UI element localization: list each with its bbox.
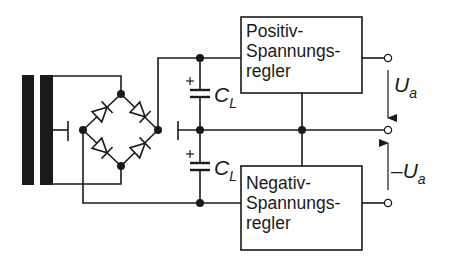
box-line: regler [246, 213, 340, 233]
cap-label-1: CL [214, 83, 237, 111]
cap-label-2: CL [214, 156, 237, 184]
positive-regulator-label: Positiv- Spannungs- regler [246, 21, 340, 81]
schematic: CL CL Ua –Ua [0, 0, 451, 259]
box-line: Spannungs- [246, 41, 340, 61]
circuit-diagram: CL CL Ua –Ua Positiv- Spannungs- regler … [0, 0, 451, 259]
box-line: regler [246, 61, 340, 81]
box-line: Negativ- [246, 173, 340, 193]
negative-regulator-label: Negativ- Spannungs- regler [246, 173, 340, 233]
bridge-rectifier-icon [83, 94, 158, 166]
output-label-negative: –Ua [391, 159, 426, 187]
transformer-icon [22, 75, 53, 185]
box-line: Spannungs- [246, 193, 340, 213]
output-label-positive: Ua [394, 73, 417, 101]
box-line: Positiv- [246, 21, 340, 41]
